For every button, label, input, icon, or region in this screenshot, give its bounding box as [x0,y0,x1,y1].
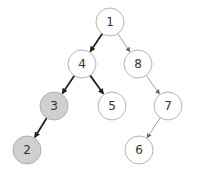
node-label: 8 [134,57,142,71]
node-label: 4 [78,57,86,71]
edge-1-to-4 [90,34,102,52]
tree-node-4: 4 [68,50,96,78]
tree-node-3: 3 [40,92,68,120]
tree-node-6: 6 [125,136,153,164]
tree-diagram: 14835726 [0,0,197,174]
edge-4-to-5 [90,75,103,93]
node-label: 7 [164,99,172,113]
tree-node-2: 2 [13,136,41,164]
edge-8-to-7 [146,75,159,93]
edge-4-to-3 [62,76,74,94]
node-label: 3 [50,99,58,113]
edge-7-to-6 [147,118,160,138]
tree-node-8: 8 [124,50,152,78]
tree-node-5: 5 [98,92,126,120]
node-label: 5 [108,99,116,113]
edges-layer [35,34,160,138]
edge-1-to-8 [118,34,130,52]
tree-node-1: 1 [96,8,124,36]
node-label: 6 [135,143,143,157]
node-label: 2 [23,143,31,157]
node-label: 1 [106,15,114,29]
tree-node-7: 7 [154,92,182,120]
edge-3-to-2 [35,118,47,137]
